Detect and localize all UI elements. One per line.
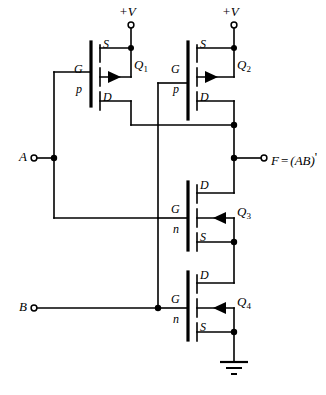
junction-dot-q1-source-vdd xyxy=(128,45,134,51)
q3-device-label: Q3 xyxy=(237,204,251,221)
q2-device-index: 2 xyxy=(246,64,251,74)
output-expression: F=(AB)' xyxy=(271,149,317,169)
input-terminal-a xyxy=(31,155,37,161)
output-equals: = xyxy=(281,153,288,168)
q1-channel-type: p xyxy=(76,82,82,97)
q4-pin-label-source: S xyxy=(200,320,206,335)
output-label-f: F xyxy=(271,153,279,168)
q3-nchannel-arrow xyxy=(213,212,226,224)
q3-device-index: 3 xyxy=(246,211,251,221)
vdd-label-left: +V xyxy=(119,4,136,20)
q2-channel-type: p xyxy=(173,82,179,97)
ground-symbol xyxy=(220,362,248,374)
q3-pin-label-source: S xyxy=(200,230,206,245)
q2-pin-label-drain: D xyxy=(200,90,209,105)
q2-pin-label-gate: G xyxy=(171,62,180,77)
junction-dot-input-a xyxy=(51,155,57,161)
output-prime: ' xyxy=(315,149,317,164)
q1-device-label: Q1 xyxy=(134,57,148,74)
q4-pin-label-drain: D xyxy=(200,268,209,283)
cmos-nand-schematic xyxy=(0,0,326,395)
junction-dot-q2-source-vdd xyxy=(231,45,237,51)
q3-device-letter: Q xyxy=(237,204,246,219)
q4-nchannel-arrow xyxy=(213,302,226,314)
q2-device-letter: Q xyxy=(237,57,246,72)
q3-pin-label-gate: G xyxy=(171,202,180,217)
q4-device-index: 4 xyxy=(246,301,251,311)
q2-pchannel-arrow xyxy=(205,71,218,83)
q1-pin-label-gate: G xyxy=(74,62,83,77)
junction-dot-q4-source xyxy=(231,329,237,335)
q1-pin-label-source: S xyxy=(103,37,109,52)
q3-channel-type: n xyxy=(173,222,179,237)
output-terminal-f xyxy=(261,155,267,161)
input-label-b: B xyxy=(19,299,27,315)
q2-pin-label-source: S xyxy=(200,37,206,52)
q1-device-letter: Q xyxy=(134,57,143,72)
junction-dot-input-b xyxy=(155,305,161,311)
q1-pin-label-drain: D xyxy=(103,90,112,105)
q1-pchannel-arrow xyxy=(108,71,121,83)
q1-device-index: 1 xyxy=(143,64,148,74)
q2-device-label: Q2 xyxy=(237,57,251,74)
q3-pin-label-drain: D xyxy=(200,178,209,193)
q4-device-label: Q4 xyxy=(237,294,251,311)
q4-device-letter: Q xyxy=(237,294,246,309)
input-terminal-b xyxy=(31,305,37,311)
vdd-terminal-right xyxy=(231,22,237,28)
junction-dot-output xyxy=(231,155,237,161)
vdd-label-right: +V xyxy=(222,4,239,20)
junction-dot-q3-source xyxy=(231,239,237,245)
input-label-a: A xyxy=(19,149,27,165)
vdd-terminal-left xyxy=(128,22,134,28)
q4-channel-type: n xyxy=(173,312,179,327)
q4-pin-label-gate: G xyxy=(171,292,180,307)
output-label-expr: (AB) xyxy=(290,153,315,168)
